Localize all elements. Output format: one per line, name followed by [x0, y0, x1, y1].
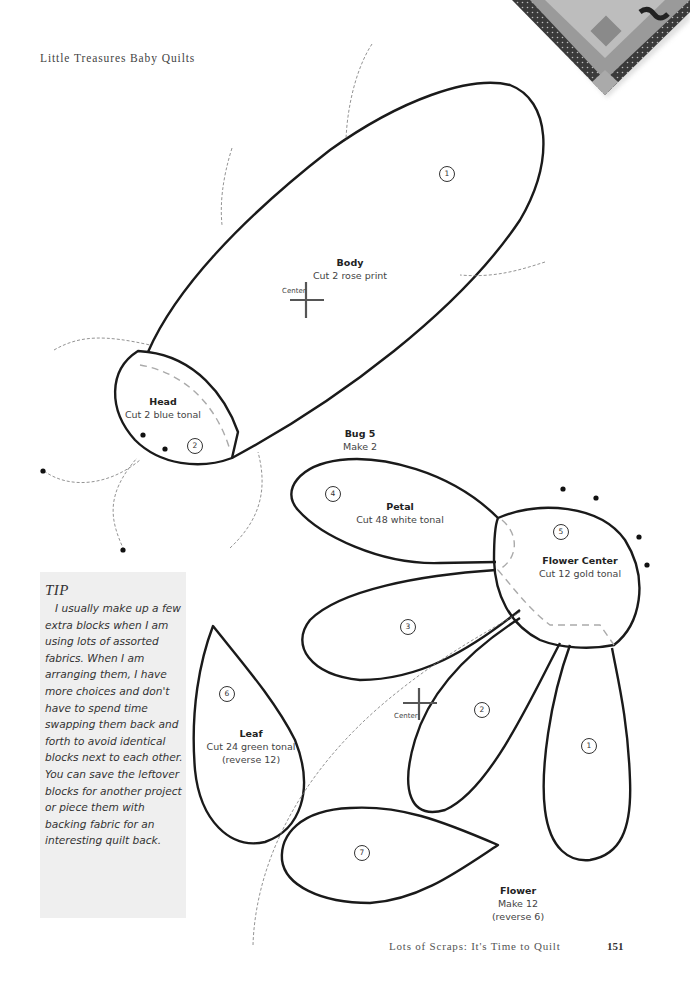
bug-body-label: Body Cut 2 rose print — [290, 256, 410, 282]
flower-title-label: Flower Make 12 (reverse 6) — [478, 884, 558, 923]
tip-title: TIP — [45, 582, 69, 599]
flower-center-cross-label: Center — [394, 712, 418, 720]
make-count: Make 12 — [478, 897, 558, 910]
tip-body: I usually make up a few extra blocks whe… — [45, 600, 187, 849]
cut-instruction: Cut 24 green tonal — [196, 740, 306, 753]
page-number: 151 — [607, 940, 624, 952]
petal-label: Petal Cut 48 white tonal — [345, 500, 455, 526]
piece-number-flower-6: 6 — [219, 686, 235, 702]
piece-number-flower-7: 7 — [354, 845, 370, 861]
reverse-note: (reverse 12) — [196, 753, 306, 766]
piece-number-flower-4: 4 — [325, 486, 341, 502]
piece-number-bug-2: 2 — [187, 438, 203, 454]
reverse-note: (reverse 6) — [478, 910, 558, 923]
piece-name: Petal — [345, 500, 455, 513]
cut-instruction: Cut 2 rose print — [290, 269, 410, 282]
piece-number-flower-2: 2 — [474, 702, 490, 718]
block-title: Bug 5 — [330, 427, 390, 440]
cut-instruction: Cut 2 blue tonal — [118, 408, 208, 421]
piece-number-flower-5: 5 — [553, 524, 569, 540]
cut-instruction: Cut 12 gold tonal — [525, 567, 635, 580]
make-count: Make 2 — [330, 440, 390, 453]
block-title: Flower — [478, 884, 558, 897]
piece-name: Head — [118, 395, 208, 408]
piece-name: Body — [290, 256, 410, 269]
piece-number-bug-1: 1 — [439, 166, 455, 182]
piece-7-outline — [282, 808, 498, 903]
footer-book-title: Lots of Scraps: It's Time to Quilt — [389, 940, 561, 952]
flower-center-label: Flower Center Cut 12 gold tonal — [525, 554, 635, 580]
piece-name: Leaf — [196, 727, 306, 740]
bug-head-label: Head Cut 2 blue tonal — [118, 395, 208, 421]
leaf-label: Leaf Cut 24 green tonal (reverse 12) — [196, 727, 306, 766]
cut-instruction: Cut 48 white tonal — [345, 513, 455, 526]
bug-title-label: Bug 5 Make 2 — [330, 427, 390, 453]
piece-name: Flower Center — [525, 554, 635, 567]
piece-number-flower-3: 3 — [400, 619, 416, 635]
piece-number-flower-1: 1 — [581, 738, 597, 754]
body-center-label: Center — [282, 287, 306, 295]
